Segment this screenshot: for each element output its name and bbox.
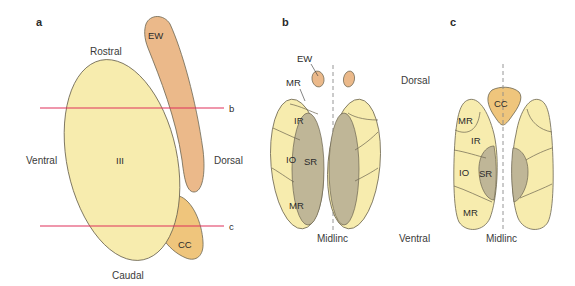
sr-label-c: SR: [479, 168, 492, 179]
sr-label-b: SR: [304, 156, 317, 167]
mr-top-label-b: MR: [286, 77, 301, 88]
dorsal-label-a: Dorsal: [214, 155, 243, 166]
caudal-label: Caudal: [112, 270, 144, 281]
cc-label-a: CC: [178, 239, 192, 250]
mr-pointer: [300, 89, 305, 101]
ew-nucleus-left: [311, 70, 326, 88]
ventral-label-b: Ventral: [399, 233, 430, 244]
mr-top-label-c: MR: [458, 115, 473, 126]
rostral-label: Rostral: [90, 46, 122, 57]
midline-label-c: Midlinc: [486, 233, 517, 244]
io-label-b: IO: [286, 154, 296, 165]
ew-label-b: EW: [297, 53, 312, 64]
panel-b: b EW MR IR IO SR MR Dorsa: [265, 16, 430, 244]
ir-label-b: IR: [294, 115, 304, 126]
iii-label: III: [116, 155, 124, 166]
right-nucleus-c: [512, 99, 554, 229]
right-nucleus-b: [322, 97, 385, 231]
ventral-label-a: Ventral: [26, 155, 57, 166]
sr-subnucleus-right: [329, 113, 359, 225]
section-b-label: b: [229, 103, 234, 114]
panel-c-label: c: [450, 16, 456, 28]
panel-a-label: a: [36, 16, 43, 28]
midline-label-b: Midlinc: [317, 233, 348, 244]
panel-c: c CC MR IR IO SR MR Midlinc: [450, 16, 553, 244]
cc-label-c: CC: [494, 98, 508, 109]
panel-a: a b c EW CC III Rostral Caudal Ventral D…: [26, 16, 243, 281]
dorsal-label-b: Dorsal: [401, 75, 430, 86]
oculomotor-nucleus-diagram: a b c EW CC III Rostral Caudal Ventral D…: [0, 0, 575, 286]
panel-b-label: b: [282, 16, 289, 28]
ew-nucleus-right: [342, 70, 356, 88]
section-c-label: c: [229, 221, 234, 232]
mr-bottom-label-b: MR: [289, 200, 304, 211]
mr-bottom-label-c: MR: [463, 207, 478, 218]
ew-label-a: EW: [148, 30, 163, 41]
io-label-c: IO: [459, 167, 469, 178]
ir-label-c: IR: [471, 135, 481, 146]
